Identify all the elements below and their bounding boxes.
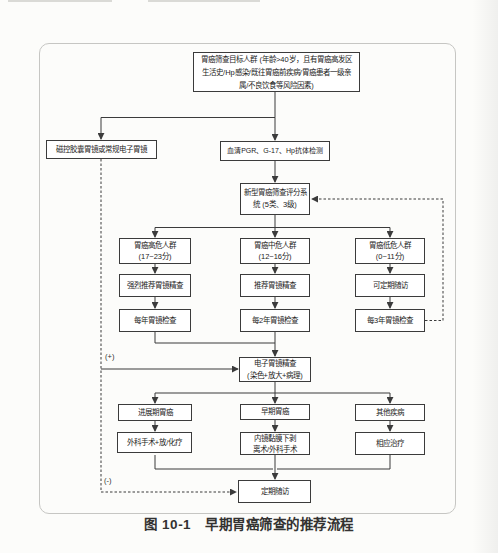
node-scoring-system: 新型胃癌筛查评分系 统 (5类、3级) — [240, 183, 310, 215]
figure-page: 胃癌筛查目标人群 (年龄>40岁，且有胃癌高发区 生活史/Hp感染/既往胃癌前疾… — [0, 0, 498, 553]
node-capsule-endoscopy: 磁控胶囊胃镜或常规电子胃镜 — [46, 140, 157, 159]
node-advanced-cancer: 进展期胃癌 — [118, 404, 192, 421]
label-endoscopy-negative: (-) — [104, 477, 112, 485]
node-medium-risk-action: 推荐胃镜精查 — [240, 274, 310, 297]
node-early-treatment: 内镜黏膜下剥 离术/外科手术 — [240, 432, 310, 455]
node-detailed-endoscopy: 电子胃镜精查 (染色+放大+病理) — [239, 357, 311, 382]
node-low-risk-group: 胃癌低危人群 (0~11分) — [355, 238, 425, 264]
node-serum-test: 血清PGR、G-17、Hp抗体检测 — [220, 141, 330, 161]
node-target-population: 胃癌筛查目标人群 (年龄>40岁，且有胃癌高发区 生活史/Hp感染/既往胃癌前疾… — [193, 52, 360, 92]
figure-caption-title: 早期胃癌筛查的推荐流程 — [205, 517, 354, 532]
scan-artifact-line — [8, 0, 112, 2]
node-high-risk-action: 强烈推荐胃镜精查 — [119, 274, 191, 297]
node-other-treatment: 相应治疗 — [355, 432, 425, 455]
node-high-risk-group: 胃癌高危人群 (17~23分) — [119, 238, 191, 264]
node-low-risk-action: 可定期随访 — [355, 274, 425, 297]
node-high-risk-interval: 每年胃镜检查 — [119, 309, 191, 332]
node-medium-risk-interval: 每2年胃镜检查 — [240, 309, 310, 332]
figure-caption: 图 10-1早期胃癌筛查的推荐流程 — [0, 513, 498, 533]
node-medium-risk-group: 胃癌中危人群 (12~16分) — [240, 238, 310, 264]
figure-caption-number: 图 10-1 — [144, 517, 191, 532]
page-edge-shade — [472, 0, 498, 553]
node-follow-up: 定期随访 — [238, 480, 311, 503]
node-low-risk-interval: 每3年胃镜检查 — [355, 309, 425, 332]
node-advanced-treatment: 外科手术+放/化疗 — [117, 432, 192, 453]
node-other-disease: 其他疾病 — [355, 404, 425, 421]
label-endoscopy-positive: (+) — [105, 353, 114, 361]
node-early-cancer: 早期胃癌 — [240, 404, 310, 420]
scan-artifact-line — [148, 0, 260, 2]
